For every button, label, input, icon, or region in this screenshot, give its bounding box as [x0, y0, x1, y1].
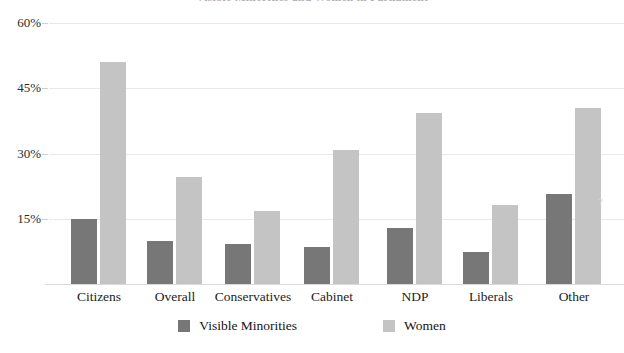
bar — [254, 211, 280, 284]
y-axis-tick-label: 30% — [0, 146, 41, 162]
bar — [225, 244, 251, 284]
x-axis-tick-label: Other — [509, 289, 624, 305]
bar — [147, 241, 173, 284]
y-axis-tick-mark — [42, 88, 48, 89]
legend-item: Visible Minorities — [178, 318, 297, 334]
bar — [333, 150, 359, 284]
legend-swatch — [383, 320, 395, 332]
bar — [416, 113, 442, 284]
x-axis-baseline — [45, 284, 624, 285]
legend-label: Women — [404, 318, 446, 334]
bar — [304, 247, 330, 284]
bar-chart: Visible Minorities and Women in Parliame… — [0, 0, 624, 353]
chart-title: Visible Minorities and Women in Parliame… — [0, 0, 624, 3]
bar — [176, 177, 202, 284]
legend-item: Women — [383, 318, 446, 334]
bar — [546, 194, 572, 284]
y-axis-tick-label: 45% — [0, 80, 41, 96]
y-axis-tick-mark — [42, 154, 48, 155]
bar — [463, 252, 489, 284]
bar — [71, 219, 97, 284]
gridline — [49, 88, 624, 89]
chart-legend: Visible MinoritiesWomen — [0, 318, 624, 334]
bar — [100, 62, 126, 284]
y-axis-tick-label: 60% — [0, 15, 41, 31]
bar — [575, 108, 601, 284]
legend-swatch — [178, 320, 190, 332]
gridline — [49, 23, 624, 24]
bar — [492, 205, 518, 284]
plot-area: 60%45%30%15% CitizensOverallConservative… — [49, 8, 624, 284]
y-axis-tick-label: 15% — [0, 211, 41, 227]
legend-label: Visible Minorities — [199, 318, 297, 334]
bar — [387, 228, 413, 284]
y-axis-tick-mark — [42, 219, 48, 220]
y-axis-tick-mark — [42, 23, 48, 24]
